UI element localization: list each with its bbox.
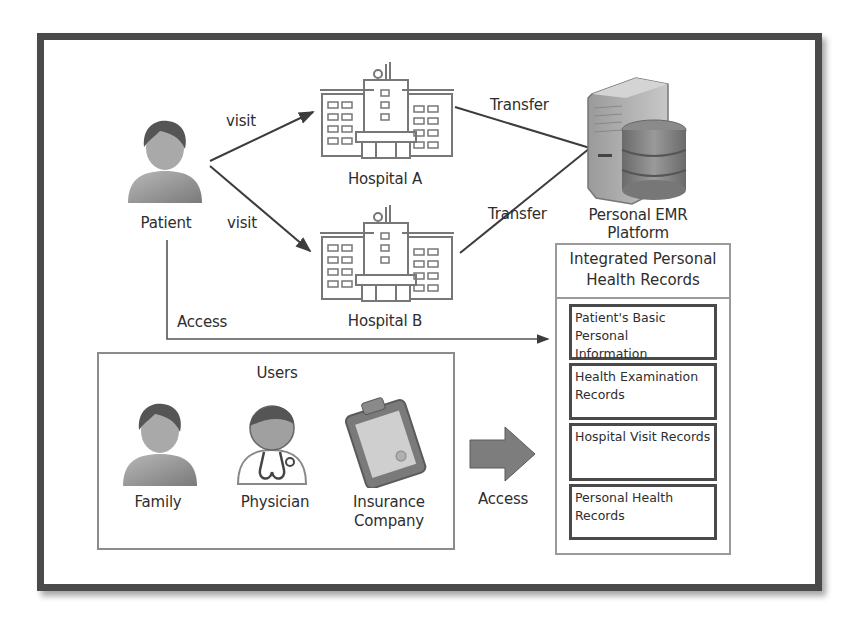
users-access-label: Access [478,490,528,508]
hospital-b-label: Hospital B [348,312,422,330]
record-line: Records [575,386,711,404]
record-line: Records [575,507,711,525]
patient-access-label: Access [177,313,227,331]
record-line: Hospital Visit Records [575,428,711,446]
visit-label-a: visit [226,112,256,130]
emr-server-database-icon [586,76,690,206]
records-panel-title: Integrated Personal Health Records [557,245,729,299]
family-person-icon [119,398,201,488]
hospital-b-icon [318,205,456,305]
patient-person-icon [124,115,206,205]
users-title: Users [256,364,297,382]
platform-label-line1: Personal EMR [589,206,688,224]
insurance-label-line2: Company [354,512,424,530]
physician-doctor-icon [236,402,308,488]
patient-label: Patient [141,214,192,232]
record-personal-health: Personal Health Records [569,484,717,540]
insurance-label-line1: Insurance [353,493,425,511]
platform-label-line2: Platform [607,224,669,242]
transfer-label-a: Transfer [490,96,549,114]
record-line: Health Examination [575,368,711,386]
insurance-clipboard-icon [340,396,432,488]
transfer-label-b: Transfer [488,205,547,223]
family-label: Family [134,493,181,511]
hospital-a-icon [318,62,456,162]
record-health-exam: Health Examination Records [569,363,717,420]
integrated-health-records-panel: Integrated Personal Health Records Patie… [555,243,731,555]
hospital-a-label: Hospital A [348,170,422,188]
visit-label-b: visit [227,214,257,232]
records-title-line1: Integrated Personal [557,249,729,270]
record-line: Patient's Basic Personal [575,309,711,345]
record-hospital-visit: Hospital Visit Records [569,423,717,481]
physician-label: Physician [241,493,310,511]
record-basic-info: Patient's Basic Personal Information [569,304,717,360]
record-line: Information [575,345,711,363]
record-line: Personal Health [575,489,711,507]
records-title-line2: Health Records [557,270,729,291]
